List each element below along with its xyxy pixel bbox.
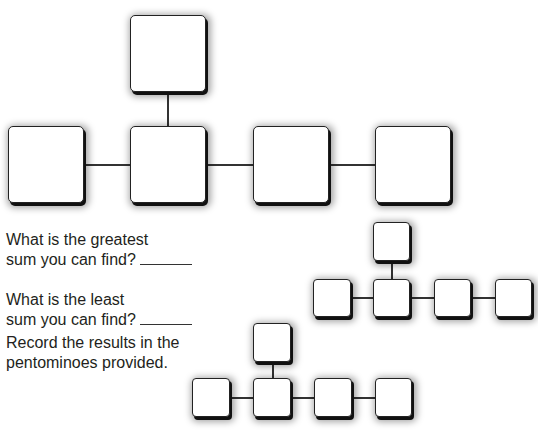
connector: [391, 261, 393, 279]
connector: [84, 164, 130, 166]
record-instruction: Record the results in the pentominoes pr…: [6, 333, 179, 373]
least-line1: What is the least: [6, 290, 192, 310]
large-cell-3[interactable]: [253, 126, 329, 203]
least-answer-blank[interactable]: [140, 310, 192, 325]
connector: [206, 164, 253, 166]
connector: [410, 297, 434, 299]
greatest-line1: What is the greatest: [6, 230, 192, 250]
answer2-cell-top[interactable]: [253, 323, 291, 362]
connector: [230, 397, 253, 399]
connector: [167, 92, 169, 126]
large-cell-2[interactable]: [130, 126, 206, 203]
answer2-cell-3[interactable]: [314, 378, 352, 417]
answer1-cell-3[interactable]: [434, 279, 471, 317]
connector: [351, 297, 373, 299]
connector: [272, 362, 274, 378]
answer1-cell-1[interactable]: [313, 279, 351, 317]
connector: [329, 164, 375, 166]
answer1-cell-4[interactable]: [495, 279, 532, 317]
least-question: What is the least sum you can find?: [6, 290, 192, 330]
connector: [291, 397, 314, 399]
connector: [352, 397, 375, 399]
large-cell-1[interactable]: [8, 126, 84, 203]
answer2-cell-1[interactable]: [192, 378, 230, 417]
connector: [471, 297, 495, 299]
answer2-cell-2[interactable]: [253, 378, 291, 417]
answer2-cell-4[interactable]: [375, 378, 412, 417]
record-line1: Record the results in the: [6, 333, 179, 353]
greatest-line2: sum you can find?: [6, 251, 136, 268]
large-cell-top[interactable]: [130, 15, 206, 92]
record-line2: pentominoes provided.: [6, 353, 179, 373]
greatest-question: What is the greatest sum you can find?: [6, 230, 192, 270]
answer1-cell-top[interactable]: [373, 222, 410, 261]
greatest-answer-blank[interactable]: [140, 250, 192, 265]
large-cell-4[interactable]: [375, 126, 451, 203]
answer1-cell-2[interactable]: [373, 279, 410, 317]
least-line2: sum you can find?: [6, 311, 136, 328]
